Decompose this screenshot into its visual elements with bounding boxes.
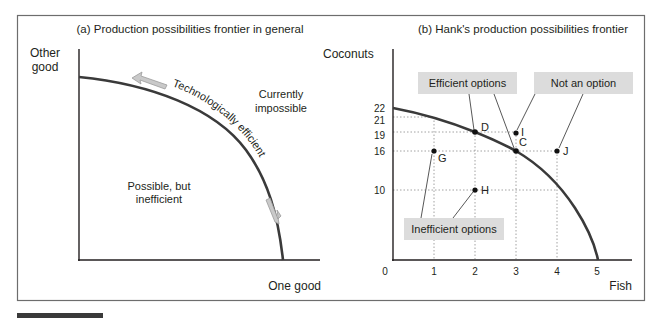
- panel-a-x-label: One good: [268, 279, 321, 293]
- panel-a: (a) Production possibilities frontier in…: [30, 23, 321, 293]
- region-outside-label: Currently: [259, 88, 304, 100]
- svg-text:2: 2: [472, 266, 478, 277]
- svg-text:4: 4: [554, 266, 560, 277]
- point-h: [472, 187, 477, 192]
- point-labels: D C I J G H: [438, 121, 569, 196]
- svg-text:Efficient options: Efficient options: [429, 77, 507, 89]
- point-j: [554, 148, 559, 153]
- region-outside-label-2: impossible: [255, 102, 307, 114]
- data-points: [431, 129, 559, 192]
- svg-text:10: 10: [374, 185, 386, 196]
- point-c: [513, 148, 519, 154]
- svg-text:0: 0: [382, 266, 388, 277]
- svg-text:G: G: [438, 152, 447, 164]
- panel-a-title: (a) Production possibilities frontier in…: [77, 23, 304, 35]
- figure: (a) Production possibilities frontier in…: [0, 0, 660, 318]
- point-d: [472, 129, 478, 135]
- svg-text:H: H: [481, 184, 489, 196]
- panel-b-title: (b) Hank's production possibilities fron…: [418, 23, 628, 35]
- figure-label-bar: [17, 313, 103, 318]
- svg-text:J: J: [563, 145, 569, 157]
- svg-text:Inefficient options: Inefficient options: [411, 223, 497, 235]
- x-tick-labels: 0 1 2 3 4 5: [382, 266, 600, 277]
- callout-inefficient: Inefficient options: [404, 218, 504, 240]
- point-i: [513, 130, 518, 135]
- region-inside-label: Possible, but: [128, 180, 191, 192]
- svg-text:22: 22: [374, 103, 386, 114]
- svg-text:I: I: [521, 126, 524, 138]
- panel-a-y-label: Other: [30, 46, 60, 60]
- panel-b: (b) Hank's production possibilities fron…: [323, 23, 633, 293]
- svg-text:21: 21: [374, 115, 386, 126]
- svg-text:Not an option: Not an option: [551, 77, 616, 89]
- svg-text:19: 19: [374, 130, 386, 141]
- callout-not-option: Not an option: [534, 72, 633, 94]
- svg-text:5: 5: [594, 266, 600, 277]
- point-g: [431, 148, 436, 153]
- panel-a-curve-label: Technologically efficient: [171, 77, 268, 159]
- panel-b-y-label: Coconuts: [323, 47, 374, 61]
- panel-a-ppf-curve: [79, 77, 283, 260]
- callout-efficient: Efficient options: [418, 72, 517, 94]
- svg-text:16: 16: [374, 146, 386, 157]
- arrow-down-right-icon: [266, 198, 281, 224]
- region-inside-label-2: inefficient: [136, 193, 182, 205]
- svg-text:1: 1: [431, 266, 437, 277]
- y-tick-labels: 22 21 19 16 10: [374, 103, 386, 196]
- svg-text:D: D: [481, 121, 489, 133]
- svg-text:3: 3: [513, 266, 519, 277]
- panel-b-x-label: Fish: [609, 279, 632, 293]
- panel-a-y-label-2: good: [32, 60, 59, 74]
